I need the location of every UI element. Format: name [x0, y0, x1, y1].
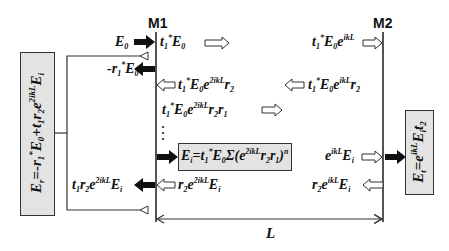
- eq-return-m1: t1*E0e2ikLr2: [178, 77, 234, 93]
- eq-second-pass: t1*E0e2ikLr2r1: [162, 102, 227, 118]
- continuation-dots: ···: [161, 124, 165, 142]
- eq-transmitted-m1: t1*E0: [160, 34, 185, 50]
- eq-leak-m1: t1r2e2ikLEi: [72, 177, 122, 193]
- eq-return-ei-m1: r2e2ikLEi: [178, 177, 220, 193]
- eq-incident: E0: [115, 34, 128, 50]
- mirror-label-m2: M2: [373, 15, 392, 31]
- eq-total-transmitted: Et=eikLEit2: [410, 111, 428, 193]
- mirror-label-m1: M1: [148, 15, 167, 31]
- eq-arrive-m2: t1*E0eikL: [312, 34, 355, 50]
- diagram-lines: [0, 0, 449, 251]
- eq-intracavity-at-m2: eikLEi: [325, 148, 354, 164]
- cavity-length-label: L: [266, 225, 275, 241]
- eq-intracavity-sum: Ei=t1*E0Σ(e2ikLr2r1)n: [181, 148, 288, 164]
- eq-reflect-ei-m2: r2eikLEi: [312, 177, 350, 193]
- eq-total-reflected: Er=-r1*E0+t1r2e2ikLEi: [28, 53, 46, 213]
- eq-reflected-m1: -r1*E0: [107, 61, 138, 77]
- eq-reflect-m2: t1*E0eikLr2: [308, 77, 360, 93]
